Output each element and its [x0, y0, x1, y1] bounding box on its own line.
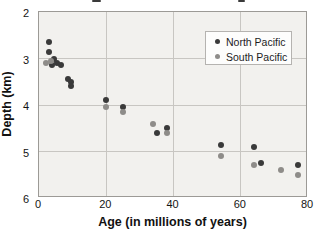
data-point-south-pacific [295, 172, 301, 178]
y-tick-label: 3 [0, 54, 29, 66]
data-point-north-pacific [251, 144, 257, 150]
y-tick-label: 2 [0, 7, 29, 19]
data-point-south-pacific [164, 130, 170, 136]
data-point-north-pacific [68, 83, 74, 89]
x-tick-label: 20 [90, 198, 120, 210]
x-axis-title: Age (in millions of years) [38, 215, 307, 229]
y-axis-title: Depth (km) [0, 66, 14, 142]
data-point-south-pacific [120, 109, 126, 115]
legend: North Pacific South Pacific [205, 31, 292, 65]
data-point-north-pacific [218, 142, 224, 148]
data-point-south-pacific [278, 167, 284, 173]
south-pacific-marker-icon [215, 54, 220, 59]
x-tick-label: 60 [225, 198, 255, 210]
x-tick-label: 0 [23, 198, 53, 210]
legend-item-north-pacific: North Pacific [215, 34, 291, 49]
data-point-north-pacific [103, 97, 109, 103]
x-tick-label: 40 [158, 198, 188, 210]
data-point-south-pacific [218, 153, 224, 159]
legend-label: South Pacific [226, 51, 287, 63]
data-point-south-pacific [48, 58, 54, 64]
cropped-title-fragment [238, 0, 245, 2]
data-point-north-pacific [154, 130, 160, 136]
y-tick-label: 5 [0, 147, 29, 159]
legend-item-south-pacific: South Pacific [215, 49, 291, 64]
legend-label: North Pacific [226, 36, 286, 48]
data-point-north-pacific [46, 49, 52, 55]
data-point-north-pacific [258, 160, 264, 166]
data-point-north-pacific [46, 39, 52, 45]
gridline-horizontal [39, 151, 306, 152]
data-point-south-pacific [150, 121, 156, 127]
data-point-north-pacific [58, 62, 64, 68]
north-pacific-marker-icon [215, 39, 220, 44]
gridline-horizontal [39, 105, 306, 106]
data-point-south-pacific [251, 162, 257, 168]
x-tick-label: 80 [292, 198, 314, 210]
data-point-south-pacific [103, 104, 109, 110]
data-point-north-pacific [295, 162, 301, 168]
cropped-title-fragment [92, 0, 101, 2]
scatter-plot-figure: 23456 020406080 Depth (km) Age (in milli… [0, 0, 314, 237]
